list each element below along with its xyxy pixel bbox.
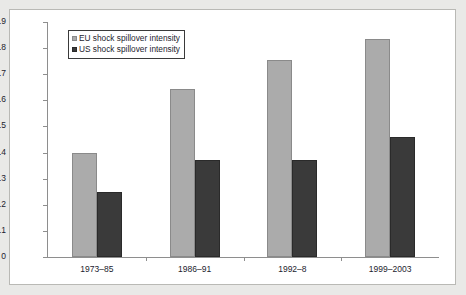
chart-legend: EU shock spillover intensityUS shock spi… — [68, 30, 185, 59]
us-bar[interactable] — [292, 160, 317, 257]
y-axis-tick-mark — [43, 126, 47, 127]
figure-border: 0.90.80.70.60.50.40.30.20.10 1973–851986… — [9, 9, 456, 285]
y-axis-tick-mark — [43, 100, 47, 101]
us-bar[interactable] — [97, 192, 122, 257]
x-axis-category-label: 1999–2003 — [341, 263, 439, 275]
x-axis-category-label: 1986–91 — [146, 263, 244, 275]
y-axis-tick-label: 0.9 — [0, 16, 6, 27]
us-bar[interactable] — [195, 160, 220, 257]
y-axis-tick-label: 0.6 — [0, 94, 6, 105]
x-axis-category-label: 1992–8 — [244, 263, 342, 275]
y-axis-tick-mark — [43, 48, 47, 49]
y-axis-tick-mark — [43, 257, 47, 258]
y-axis-tick-mark — [43, 153, 47, 154]
y-axis-tick-label: 0.3 — [0, 173, 6, 184]
x-axis-tick-mark — [146, 257, 147, 261]
y-axis-tick-mark — [43, 231, 47, 232]
legend-item-label: EU shock spillover intensity — [79, 33, 180, 44]
eu-bar[interactable] — [170, 89, 195, 257]
eu-bar[interactable] — [267, 60, 292, 257]
eu-legend-swatch — [72, 36, 77, 41]
figure-frame: 0.90.80.70.60.50.40.30.20.10 1973–851986… — [0, 0, 466, 295]
eu-bar[interactable] — [365, 39, 390, 257]
y-axis-tick-mark — [43, 74, 47, 75]
y-axis-tick-label: 0.7 — [0, 68, 6, 79]
y-axis-tick-mark — [43, 179, 47, 180]
eu-bar[interactable] — [72, 153, 97, 257]
us-bar[interactable] — [390, 137, 415, 257]
legend-item[interactable]: EU shock spillover intensity — [72, 33, 180, 44]
x-axis-category-label: 1973–85 — [48, 263, 146, 275]
bar-chart-plot-area: 0.90.80.70.60.50.40.30.20.10 1973–851986… — [10, 10, 455, 284]
y-axis-tick-mark — [43, 22, 47, 23]
us-legend-swatch — [72, 47, 77, 52]
y-axis-tick-mark — [43, 205, 47, 206]
bar-group — [267, 22, 317, 257]
y-axis-tick-label: 0 — [1, 251, 6, 262]
y-axis-tick-label: 0.4 — [0, 147, 6, 158]
legend-item[interactable]: US shock spillover intensity — [72, 44, 180, 55]
y-axis-tick-label: 0.2 — [0, 199, 6, 210]
y-axis-tick-label: 0.8 — [0, 42, 6, 53]
x-axis-tick-mark — [244, 257, 245, 261]
y-axis-tick-label: 0.5 — [0, 120, 6, 131]
bar-group — [365, 22, 415, 257]
x-axis-tick-mark — [341, 257, 342, 261]
y-axis-tick-label: 0.1 — [0, 225, 6, 236]
legend-item-label: US shock spillover intensity — [79, 44, 180, 55]
